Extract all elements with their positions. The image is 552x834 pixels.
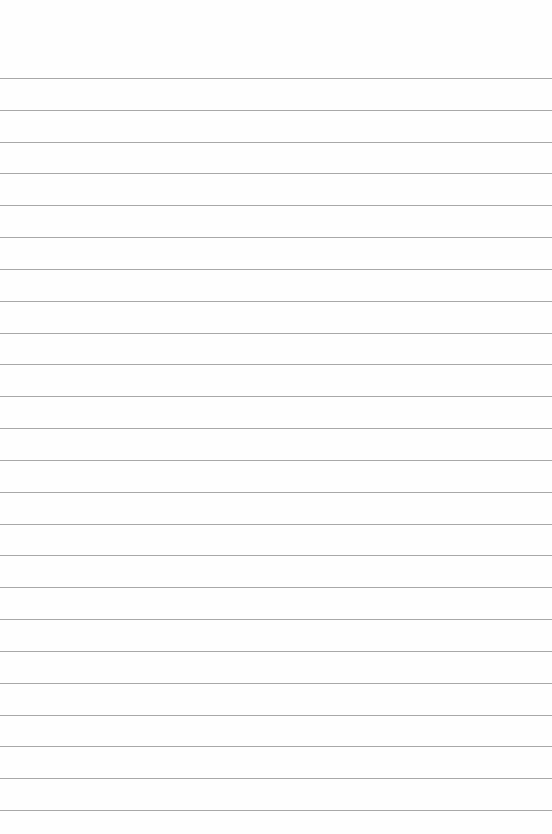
ruled-line: [0, 587, 552, 588]
ruled-line: [0, 173, 552, 174]
ruled-line: [0, 492, 552, 493]
ruled-line: [0, 110, 552, 111]
ruled-line: [0, 142, 552, 143]
ruled-line: [0, 555, 552, 556]
ruled-line: [0, 364, 552, 365]
ruled-line: [0, 396, 552, 397]
ruled-line: [0, 683, 552, 684]
ruled-line: [0, 301, 552, 302]
ruled-line: [0, 460, 552, 461]
ruled-line: [0, 778, 552, 779]
lined-paper-page: [0, 0, 552, 834]
ruled-line: [0, 269, 552, 270]
ruled-line: [0, 428, 552, 429]
ruled-line: [0, 524, 552, 525]
ruled-line: [0, 205, 552, 206]
ruled-line: [0, 810, 552, 811]
ruled-line: [0, 333, 552, 334]
ruled-line: [0, 651, 552, 652]
ruled-line: [0, 237, 552, 238]
ruled-line: [0, 78, 552, 79]
ruled-line: [0, 746, 552, 747]
ruled-line: [0, 619, 552, 620]
ruled-line: [0, 715, 552, 716]
